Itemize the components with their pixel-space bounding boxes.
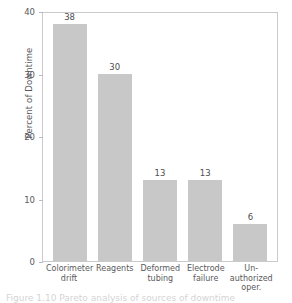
x-axis-label-line: Electrode [183, 264, 229, 274]
plot-area: 010203040 383013136 [42, 12, 278, 262]
bar[interactable] [233, 224, 267, 262]
y-tick-label: 0 [15, 257, 35, 267]
x-axis-label-line: Colorimeter [46, 264, 92, 274]
bar-item[interactable]: 6 [233, 13, 267, 261]
x-axis-label-line: oper. [229, 283, 275, 293]
x-axis-label-line: drift [46, 274, 92, 284]
x-axis-category-labels: ColorimeterdriftReagentsDeformedtubingEl… [42, 264, 278, 293]
x-axis-label-line: authorized [229, 274, 275, 284]
x-axis-label: Electrodefailure [183, 264, 229, 293]
bar-series: 383013136 [43, 13, 277, 261]
y-tick-label: 20 [15, 132, 35, 142]
x-axis-label-line: Deformed [138, 264, 184, 274]
y-tick-label: 10 [15, 195, 35, 205]
bar-value-label: 6 [233, 212, 267, 222]
bar-value-label: 13 [143, 168, 177, 178]
figure-caption: Figure 1.10 Pareto analysis of sources o… [6, 293, 286, 303]
x-axis-label-line: failure [183, 274, 229, 284]
bar-item[interactable]: 38 [53, 13, 87, 261]
x-axis-label-line: Reagents [92, 264, 138, 274]
x-axis-label: Reagents [92, 264, 138, 293]
y-axis-title: Percent of Downtime [24, 18, 34, 168]
x-axis-label: Deformedtubing [138, 264, 184, 293]
bar[interactable] [53, 24, 87, 262]
bar-item[interactable]: 13 [143, 13, 177, 261]
y-tick-label: 30 [15, 70, 35, 80]
x-axis-label: Un-authorizedoper. [229, 264, 275, 293]
bar[interactable] [98, 74, 132, 262]
x-axis-label-line: Un- [229, 264, 275, 274]
bar-value-label: 30 [98, 62, 132, 72]
y-tick-label: 40 [15, 7, 35, 17]
x-axis-label-line: tubing [138, 274, 184, 284]
bar-value-label: 38 [53, 12, 87, 22]
x-axis-label: Colorimeterdrift [46, 264, 92, 293]
bar-item[interactable]: 30 [98, 13, 132, 261]
bar[interactable] [188, 180, 222, 261]
y-tick-mark [39, 262, 43, 263]
bar[interactable] [143, 180, 177, 261]
bar-value-label: 13 [188, 168, 222, 178]
bar-item[interactable]: 13 [188, 13, 222, 261]
